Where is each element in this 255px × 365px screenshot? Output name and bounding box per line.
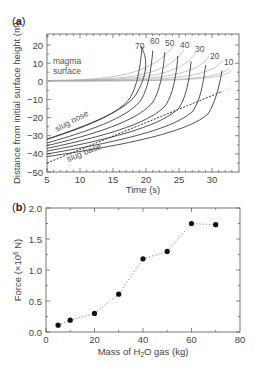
panel-b-label: (b): [12, 201, 26, 213]
panel-b-frame: [46, 208, 240, 332]
data-point: [56, 323, 61, 328]
y-tick-label: −50: [27, 167, 43, 178]
y-tick-label: 20: [32, 40, 43, 51]
curve-label-20: 20: [210, 51, 220, 61]
y-tick-label: 0.0: [29, 327, 42, 338]
x-tick-label: 15: [108, 174, 119, 185]
panel-b-y-tick-labels: 2.0 1.5 1.0 0.5 0.0: [29, 203, 42, 338]
y-tick-label: −40: [27, 148, 43, 159]
y-tick-label: −20: [27, 112, 43, 123]
panel-b-y-axis-label: Force (×106 N): [12, 239, 23, 302]
y-tick-label: 1.0: [29, 265, 42, 276]
y-tick-label: 10: [32, 58, 43, 69]
panel-b-x-axis-label: Mass of H2O gas (kg): [98, 346, 189, 358]
y-tick-label: −30: [27, 130, 43, 141]
y-tick-label: −10: [27, 94, 43, 105]
curve-label-70: 70: [135, 41, 145, 51]
surface-label: surface: [53, 66, 81, 76]
slug-nose-label: slug nose: [53, 108, 90, 134]
data-point: [189, 221, 194, 226]
force-connector-line: [58, 224, 216, 326]
curve-labels: 70 60 50 40 30 20 10: [135, 36, 234, 67]
x-tick-label: 30: [207, 174, 218, 185]
panel-a-y-tick-labels: 20 10 0 −10 −20 −30 −40 −50: [27, 40, 43, 178]
data-point: [68, 318, 73, 323]
figure: (a) 20 10 0 −10 −20 −30 −40 −50: [0, 0, 255, 365]
slug-base-label: slug base: [65, 141, 103, 164]
y-tick-label: 0.5: [29, 296, 42, 307]
x-tick-label: 80: [235, 334, 246, 345]
x-tick-label: 25: [174, 174, 185, 185]
panel-a-x-axis-label: Time (s): [126, 184, 160, 195]
panel-b-y-ticks: [46, 208, 240, 332]
curve-label-30: 30: [195, 44, 205, 54]
x-tick-label: 10: [75, 174, 86, 185]
curve-label-40: 40: [180, 40, 190, 50]
y-tick-label: 2.0: [29, 203, 42, 214]
curve-label-50: 50: [165, 38, 175, 48]
x-tick-label: 0: [43, 334, 48, 345]
x-tick-label: 60: [186, 334, 197, 345]
curve-label-10: 10: [224, 57, 234, 67]
data-point: [116, 292, 121, 297]
x-tick-label: 40: [138, 334, 149, 345]
magma-label: magma: [53, 56, 82, 66]
curve-label-60: 60: [150, 36, 160, 46]
panel-a-y-axis-label: Distance from initial surface height (m): [11, 22, 22, 184]
y-tick-label: 1.5: [29, 234, 42, 245]
data-point: [140, 256, 145, 261]
x-tick-label: 20: [89, 334, 100, 345]
y-tick-label: 0: [38, 76, 43, 87]
panel-b-x-ticks: [46, 208, 216, 332]
data-point: [92, 311, 97, 316]
x-tick-label: 5: [44, 174, 49, 185]
force-data-points: [56, 221, 219, 328]
panel-b-x-tick-labels: 0 20 40 60 80: [43, 334, 245, 345]
data-point: [213, 222, 218, 227]
data-point: [165, 249, 170, 254]
slug-base-line-extension: [221, 88, 232, 93]
